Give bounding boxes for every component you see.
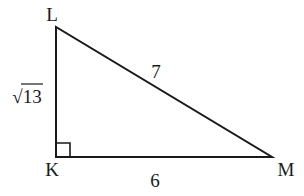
vertex-label-l: L	[46, 4, 58, 25]
triangle-lkm	[56, 27, 272, 157]
vertex-label-k: K	[45, 159, 59, 180]
side-label-km: 6	[150, 170, 160, 191]
side-label-lm: 7	[151, 61, 161, 82]
right-angle-marker	[56, 143, 70, 157]
side-label-lk: √13	[12, 86, 41, 107]
triangle-diagram: L K M 7 6 √13	[0, 0, 304, 196]
vertex-label-m: M	[278, 159, 295, 180]
